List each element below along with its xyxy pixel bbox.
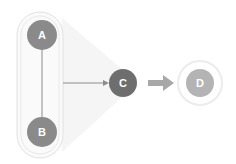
node-c-label: C	[119, 77, 127, 89]
edge-c-to-d	[148, 75, 174, 91]
node-d-label: D	[196, 77, 204, 89]
node-b[interactable]: B	[27, 117, 57, 147]
node-c[interactable]: C	[109, 69, 137, 97]
node-b-label: B	[38, 126, 46, 138]
node-d[interactable]: D	[178, 61, 222, 105]
diagram-canvas: A B C D	[0, 0, 236, 164]
node-a[interactable]: A	[27, 20, 57, 50]
node-a-label: A	[38, 29, 46, 41]
thick-arrowhead-icon	[163, 75, 174, 91]
